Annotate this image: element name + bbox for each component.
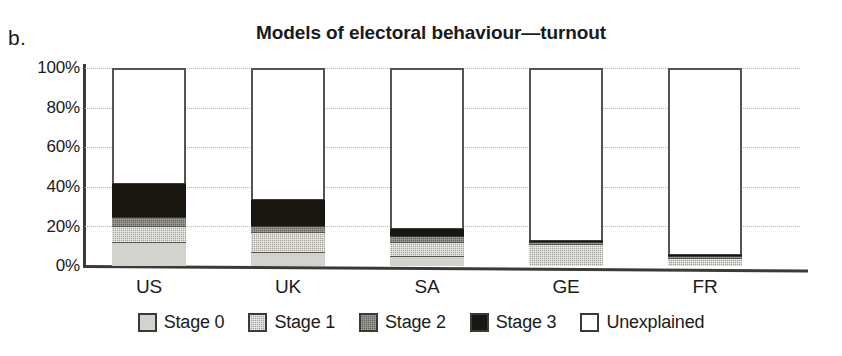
bar-segment-stage-1 <box>668 258 742 266</box>
legend-swatch-icon <box>580 313 599 332</box>
bar-segment-stage-0 <box>112 242 186 266</box>
legend-label: Stage 1 <box>274 312 335 333</box>
legend-label: Unexplained <box>606 312 704 333</box>
bar-segment-stage-0 <box>251 252 325 266</box>
bar-stack <box>668 254 742 266</box>
bar-segment-stage-3 <box>112 183 186 217</box>
bar-segment-stage-3 <box>251 199 325 227</box>
x-tick-label-uk: UK <box>251 276 325 298</box>
bar-stack <box>390 228 464 266</box>
legend-label: Stage 0 <box>164 312 225 333</box>
bar-segment-stage-3 <box>390 228 464 236</box>
chart-legend: Stage 0 Stage 1 Stage 2 Stage 3 Unexplai… <box>0 312 842 333</box>
legend-item-stage0[interactable]: Stage 0 <box>138 312 225 333</box>
legend-item-unexplained[interactable]: Unexplained <box>580 312 704 333</box>
bar-segment-stage-0 <box>390 256 464 266</box>
bar-segment-stage-1 <box>112 226 186 242</box>
bar-stack <box>251 199 325 266</box>
chart-figure: b. Models of electoral behaviour—turnout… <box>0 0 842 356</box>
bar-segment-stage-1 <box>251 232 325 252</box>
y-tick-label: 60% <box>8 138 80 155</box>
bar-segment-stage-1 <box>390 242 464 256</box>
bar-stack <box>529 240 603 266</box>
legend-swatch-icon <box>138 313 157 332</box>
bar-segment-stage-1 <box>529 244 603 266</box>
legend-swatch-icon <box>470 313 489 332</box>
legend-swatch-icon <box>248 313 267 332</box>
legend-swatch-icon <box>359 313 378 332</box>
x-tick-label-ge: GE <box>529 276 603 298</box>
x-tick-label-sa: SA <box>390 276 464 298</box>
y-tick-label: 0% <box>8 257 80 274</box>
legend-label: Stage 3 <box>496 312 557 333</box>
y-tick-label: 20% <box>8 218 80 235</box>
bar-outline-unexplained <box>529 68 603 266</box>
legend-item-stage1[interactable]: Stage 1 <box>248 312 335 333</box>
bar-outline-unexplained <box>668 68 742 266</box>
x-tick-label-fr: FR <box>668 276 742 298</box>
y-axis-tick-labels: 100% 80% 60% 40% 20% 0% <box>0 68 80 266</box>
chart-title: Models of electoral behaviour—turnout <box>0 22 842 44</box>
bar-segment-stage-2 <box>112 217 186 227</box>
x-axis-line <box>83 265 808 272</box>
y-tick-label: 40% <box>8 178 80 195</box>
y-tick-label: 80% <box>8 99 80 116</box>
legend-label: Stage 2 <box>385 312 446 333</box>
legend-item-stage3[interactable]: Stage 3 <box>470 312 557 333</box>
legend-item-stage2[interactable]: Stage 2 <box>359 312 446 333</box>
plot-area <box>85 68 800 266</box>
y-tick-label: 100% <box>8 59 80 76</box>
bar-stack <box>112 183 186 266</box>
x-tick-label-us: US <box>112 276 186 298</box>
